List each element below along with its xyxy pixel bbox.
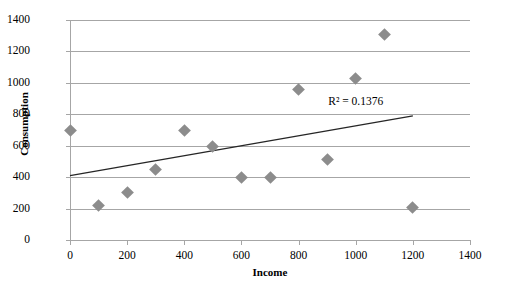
y-tick-label: 800 <box>0 108 30 120</box>
x-tick-label: 200 <box>97 250 157 262</box>
x-tick-label: 400 <box>154 250 214 262</box>
scatter-chart: Consumption 0200400600800100012001400 02… <box>0 0 506 292</box>
x-tick-mark <box>70 240 71 245</box>
y-tick-label: 200 <box>0 203 30 215</box>
x-tick-label: 1000 <box>326 250 386 262</box>
x-tick-mark <box>413 240 414 245</box>
plot-area: 0200400600800100012001400 02004006008001… <box>70 20 470 240</box>
y-tick-label: 600 <box>0 140 30 152</box>
x-tick-label: 1400 <box>440 250 500 262</box>
x-axis-line <box>70 240 470 241</box>
y-tick-label: 0 <box>0 234 30 246</box>
x-tick-mark <box>470 240 471 245</box>
x-tick-label: 600 <box>211 250 271 262</box>
x-tick-mark <box>127 240 128 245</box>
x-tick-mark <box>184 240 185 245</box>
y-tick-label: 400 <box>0 171 30 183</box>
y-tick-label: 1200 <box>0 45 30 57</box>
x-tick-mark <box>299 240 300 245</box>
x-tick-mark <box>241 240 242 245</box>
x-axis-title: Income <box>70 266 470 278</box>
x-tick-label: 0 <box>40 250 100 262</box>
y-tick-label: 1000 <box>0 77 30 89</box>
x-tick-label: 1200 <box>383 250 443 262</box>
y-tick-label: 1400 <box>0 14 30 26</box>
x-tick-mark <box>356 240 357 245</box>
x-tick-label: 800 <box>269 250 329 262</box>
r-squared-label: R² = 0.1376 <box>328 95 383 107</box>
